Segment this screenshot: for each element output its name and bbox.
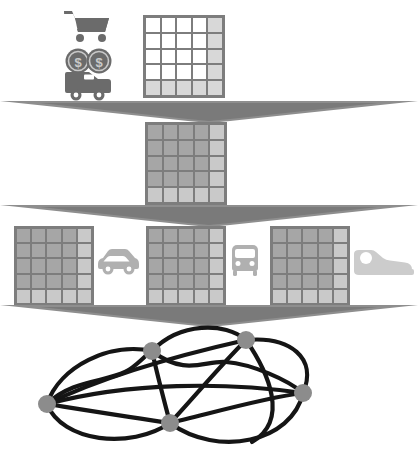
grid-cell (209, 289, 224, 304)
grid-cell (194, 187, 210, 203)
edge-n3-n5-straight (170, 340, 246, 423)
grid-cell (207, 80, 223, 96)
grid-cell (31, 274, 46, 289)
grid-cell (77, 274, 92, 289)
grid-cell (163, 140, 179, 156)
delivery-van-icon (63, 66, 113, 102)
grid-cell (16, 258, 31, 273)
grid-cell (148, 228, 163, 243)
grid-cell (287, 228, 302, 243)
grid-cell (333, 258, 348, 273)
grid-cell (194, 124, 210, 140)
grid-cell (194, 140, 210, 156)
grid-cell (318, 228, 333, 243)
grid-cell (287, 243, 302, 258)
grid-cell (16, 243, 31, 258)
grid-cell (163, 171, 179, 187)
diagram-canvas: $ $ (0, 0, 418, 463)
grid-cell (194, 171, 210, 187)
grid-cell (209, 187, 225, 203)
grid-cell (272, 243, 287, 258)
grid-cell (318, 243, 333, 258)
grid-cell (178, 289, 193, 304)
zone-grid-transit (146, 226, 226, 306)
grid-cell (209, 274, 224, 289)
grid-cell (62, 274, 77, 289)
edge-n3-n4-long (246, 340, 273, 442)
grid-cell (31, 228, 46, 243)
zone-grid-demand (143, 15, 225, 98)
grid-cell (77, 243, 92, 258)
grid-cell (209, 156, 225, 172)
grid-cell (46, 258, 61, 273)
grid-cell (178, 171, 194, 187)
grid-cell (209, 243, 224, 258)
grid-cell (161, 80, 177, 96)
grid-cell (176, 17, 192, 33)
layer-distribution (0, 118, 418, 208)
grid-cell (145, 49, 161, 65)
grid-cell (176, 49, 192, 65)
zone-grid-distribution (145, 122, 227, 205)
network-node-n1[interactable] (38, 395, 56, 413)
grid-cell (147, 171, 163, 187)
grid-cell (333, 289, 348, 304)
grid-cell (272, 258, 287, 273)
network-node-n4[interactable] (294, 384, 312, 402)
grid-cell (161, 17, 177, 33)
grid-cell (163, 187, 179, 203)
grid-cell (77, 289, 92, 304)
grid-cell (62, 258, 77, 273)
grid-cell (161, 33, 177, 49)
bus-icon (228, 244, 262, 278)
grid-cell (147, 124, 163, 140)
grid-cell (194, 274, 209, 289)
grid-cell (77, 258, 92, 273)
grid-cell (31, 258, 46, 273)
grid-cell (192, 17, 208, 33)
grid-cell (209, 140, 225, 156)
grid-cell (147, 187, 163, 203)
grid-cell (16, 274, 31, 289)
grid-cell (333, 243, 348, 258)
grid-cell (178, 187, 194, 203)
grid-cell (178, 258, 193, 273)
shopping-cart-icon (62, 8, 114, 44)
network-node-n2[interactable] (143, 342, 161, 360)
grid-cell (194, 289, 209, 304)
grid-cell (161, 64, 177, 80)
grid-cell (163, 243, 178, 258)
grid-cell (176, 80, 192, 96)
zone-grid-car (14, 226, 94, 306)
grid-cell (318, 274, 333, 289)
grid-cell (207, 49, 223, 65)
grid-cell (148, 274, 163, 289)
grid-cell (77, 228, 92, 243)
grid-cell (145, 33, 161, 49)
edge-n4-n5-up (170, 393, 303, 423)
grid-cell (207, 64, 223, 80)
grid-cell (194, 258, 209, 273)
grid-cell (209, 228, 224, 243)
network-node-n3[interactable] (237, 331, 255, 349)
grid-cell (145, 17, 161, 33)
grid-cell (287, 289, 302, 304)
grid-cell (194, 228, 209, 243)
grid-cell (16, 289, 31, 304)
grid-cell (145, 64, 161, 80)
grid-cell (194, 243, 209, 258)
grid-cell (207, 33, 223, 49)
grid-cell (192, 80, 208, 96)
walking-shoe-icon (352, 244, 414, 278)
grid-cell (287, 258, 302, 273)
grid-cell (163, 228, 178, 243)
grid-cell (192, 49, 208, 65)
grid-cell (147, 156, 163, 172)
grid-cell (163, 156, 179, 172)
grid-cell (178, 124, 194, 140)
grid-cell (194, 156, 210, 172)
grid-cell (163, 274, 178, 289)
grid-cell (178, 156, 194, 172)
grid-cell (145, 80, 161, 96)
network-node-n5[interactable] (161, 414, 179, 432)
